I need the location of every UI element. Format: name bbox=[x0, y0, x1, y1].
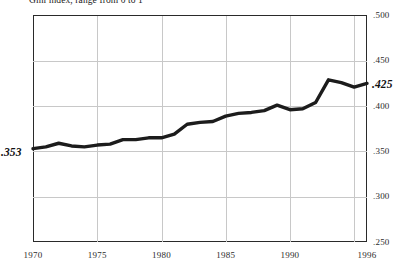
gridline-vertical bbox=[226, 16, 227, 242]
gini-index-chart: Gini index, range from 0 to 1 .500.450.4… bbox=[0, 0, 400, 273]
x-axis-tick-label: 1970 bbox=[24, 250, 43, 260]
callout-start-value: .353 bbox=[1, 146, 22, 158]
gridline-vertical bbox=[290, 16, 291, 242]
gridline-horizontal bbox=[33, 151, 367, 152]
gridline-vertical bbox=[354, 16, 355, 242]
x-axis-tick-label: 1996 bbox=[358, 250, 377, 260]
y-axis-tick-label: .400 bbox=[373, 102, 390, 111]
gridline-vertical bbox=[97, 16, 98, 242]
gridline-horizontal bbox=[33, 197, 367, 198]
gridline-horizontal bbox=[33, 61, 367, 62]
y-axis-tick-label: .450 bbox=[373, 56, 390, 65]
y-axis-tick-label: .350 bbox=[373, 147, 390, 156]
callout-end-value: .425 bbox=[372, 78, 393, 90]
gridline-vertical bbox=[162, 16, 163, 242]
x-axis-tick-label: 1975 bbox=[88, 250, 107, 260]
y-axis-tick-label: .250 bbox=[373, 238, 390, 247]
x-axis-tick-label: 1980 bbox=[152, 250, 171, 260]
x-axis-tick-label: 1990 bbox=[280, 250, 299, 260]
y-axis-tick-label: .500 bbox=[373, 11, 390, 20]
plot-area bbox=[33, 15, 367, 242]
y-axis-tick-label: .300 bbox=[373, 192, 390, 201]
gridline-horizontal bbox=[33, 106, 367, 107]
x-axis-tick-label: 1985 bbox=[216, 250, 235, 260]
chart-title: Gini index, range from 0 to 1 bbox=[29, 0, 143, 6]
